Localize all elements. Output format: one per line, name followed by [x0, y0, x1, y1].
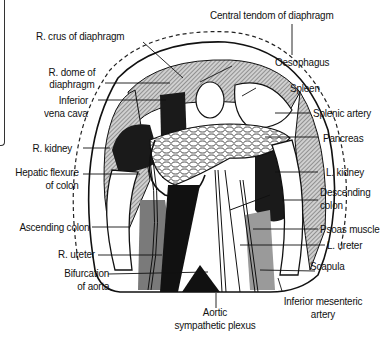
label-scapula: Scapula	[310, 260, 345, 272]
label-inf-mesenteric-line1: Inferior mesenteric	[276, 295, 371, 307]
label-r-kidney: R. kidney	[32, 142, 72, 154]
oesophagus-shape	[196, 82, 224, 118]
label-hepatic-flexure-line1: Hepatic flexure	[16, 166, 79, 178]
label-spleen: Spleen	[290, 82, 320, 94]
label-l-ureter: L. ureter	[327, 239, 362, 251]
label-descending-colon-line1: Descending	[320, 186, 371, 198]
label-ivc-line1: Inferior	[59, 94, 88, 106]
label-l-kidney: L. kidney	[326, 166, 364, 178]
label-splenic-artery: Splenic artery	[313, 107, 371, 119]
label-aortic-plexus-line2: sympathetic plexus	[163, 319, 266, 331]
label-bifurcation-line2: of aorta	[77, 280, 109, 292]
label-r-crus: R. crus of diaphragm	[36, 30, 124, 42]
label-bifurcation-line1: Bifurcation	[64, 267, 109, 279]
label-psoas-muscle: Psoas muscle	[320, 223, 380, 235]
label-r-ureter: R. ureter	[58, 248, 95, 260]
label-oesophagus: Oesophagus	[275, 56, 329, 68]
label-central-tendon: Central tendom of diaphragm	[210, 9, 333, 21]
label-ascending-colon: Ascending colon	[19, 221, 89, 233]
label-hepatic-flexure-line2: of colon	[46, 179, 79, 191]
label-r-dome-line2: diaphragm	[50, 78, 95, 90]
label-pancreas: Pancreas	[323, 132, 363, 144]
label-descending-colon-line2: colon	[320, 199, 343, 211]
label-inf-mesenteric-line2: artery	[276, 308, 371, 320]
label-aortic-plexus-line1: Aortic	[189, 306, 241, 318]
label-r-dome-line1: R. dome of	[48, 66, 95, 78]
label-ivc-line2: vena cava	[44, 107, 88, 119]
